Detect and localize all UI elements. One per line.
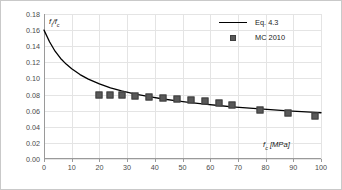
legend-label-mc2010: MC 2010 bbox=[250, 33, 285, 42]
x-tick-mark bbox=[127, 159, 128, 162]
data-point-marker bbox=[146, 94, 153, 101]
x-axis-title: fc [MPa] bbox=[263, 140, 290, 151]
y-tick-label: 0.00 bbox=[26, 155, 40, 164]
x-tick-mark bbox=[44, 159, 45, 162]
x-tick-mark bbox=[321, 159, 322, 162]
y-tick-label: 0.08 bbox=[26, 90, 40, 99]
data-point-marker bbox=[118, 92, 125, 99]
data-point-marker bbox=[257, 106, 264, 113]
x-tick-label: 10 bbox=[68, 163, 76, 172]
data-point-marker bbox=[201, 98, 208, 105]
x-axis-title-unit: [MPa] bbox=[268, 140, 290, 149]
legend-label-equation: Eq. 4.3 bbox=[250, 18, 278, 27]
x-tick-mark bbox=[99, 159, 100, 162]
x-tick-mark bbox=[210, 159, 211, 162]
x-tick-label: 40 bbox=[151, 163, 159, 172]
y-tick-label: 0.02 bbox=[26, 138, 40, 147]
data-point-marker bbox=[187, 97, 194, 104]
data-point-marker bbox=[173, 96, 180, 103]
data-point-marker bbox=[160, 94, 167, 101]
x-tick-label: 100 bbox=[315, 163, 327, 172]
x-tick-mark bbox=[293, 159, 294, 162]
y-axis-title-sub-c: c bbox=[57, 22, 60, 28]
x-tick-label: 90 bbox=[289, 163, 297, 172]
x-tick-label: 0 bbox=[42, 163, 46, 172]
x-tick-mark bbox=[155, 159, 156, 162]
data-point-marker bbox=[132, 92, 139, 99]
y-tick-label: 0.04 bbox=[26, 122, 40, 131]
x-tick-mark bbox=[238, 159, 239, 162]
legend-line-icon bbox=[216, 22, 250, 24]
data-point-marker bbox=[284, 109, 291, 116]
data-point-marker bbox=[107, 91, 114, 98]
y-tick-label: 0.06 bbox=[26, 106, 40, 115]
x-tick-label: 80 bbox=[262, 163, 270, 172]
y-tick-label: 0.10 bbox=[26, 74, 40, 83]
x-tick-label: 30 bbox=[123, 163, 131, 172]
legend-item-equation: Eq. 4.3 bbox=[216, 15, 321, 30]
x-tick-label: 60 bbox=[206, 163, 214, 172]
data-point-marker bbox=[96, 92, 103, 99]
x-tick-label: 70 bbox=[234, 163, 242, 172]
y-tick-label: 0.16 bbox=[26, 26, 40, 35]
data-point-marker bbox=[215, 100, 222, 107]
chart-container: 0.000.020.040.060.080.100.120.140.160.18… bbox=[0, 0, 342, 190]
x-tick-label: 50 bbox=[179, 163, 187, 172]
x-tick-label: 20 bbox=[95, 163, 103, 172]
y-tick-label: 0.12 bbox=[26, 58, 40, 67]
data-point-marker bbox=[312, 113, 319, 120]
grid-line-vertical bbox=[321, 14, 322, 159]
chart-legend: Eq. 4.3 MC 2010 bbox=[216, 15, 321, 45]
y-axis-title: ft/fc bbox=[49, 17, 60, 28]
x-tick-mark bbox=[183, 159, 184, 162]
data-point-marker bbox=[229, 102, 236, 109]
x-tick-mark bbox=[266, 159, 267, 162]
legend-square-icon bbox=[216, 35, 250, 41]
legend-item-mc2010: MC 2010 bbox=[216, 30, 321, 45]
y-tick-label: 0.14 bbox=[26, 42, 40, 51]
x-tick-mark bbox=[72, 159, 73, 162]
y-tick-label: 0.18 bbox=[26, 10, 40, 19]
